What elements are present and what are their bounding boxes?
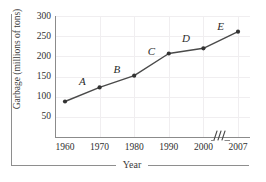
x-tick-label: 2000 [194, 142, 213, 152]
series-markers [63, 30, 240, 104]
x-tick-label: 1970 [90, 142, 109, 152]
y-axis-title-rotator: Garbage (millions of tons) [6, 0, 20, 119]
data-point-marker [132, 74, 136, 78]
x-tick-label: 1990 [159, 142, 178, 152]
y-axis-title: Garbage (millions of tons) [12, 6, 22, 113]
data-point-marker [201, 46, 205, 50]
data-point-marker [167, 51, 171, 55]
y-tick-label: 100 [37, 92, 51, 101]
series-polyline [65, 32, 238, 102]
data-point-marker [98, 85, 102, 89]
x-tick-label: 1960 [56, 142, 75, 152]
x-axis-title: Year [116, 158, 148, 172]
plot-area: 50100150200250300 1960197019801990200020… [55, 16, 250, 137]
chart-figure: Year Garbage (millions of tons) 50100150… [0, 0, 266, 182]
figure-bracket-horizontal-right [148, 165, 249, 166]
y-tick-label: 200 [37, 52, 51, 61]
x-tick-label: 1980 [125, 142, 144, 152]
y-tick-label: 300 [37, 12, 51, 21]
segment-label-e: E [217, 21, 224, 32]
segment-label-d: D [182, 32, 190, 43]
figure-bracket-horizontal-left [11, 165, 116, 166]
axis-break-zigzag-icon [211, 128, 233, 142]
data-point-marker [236, 30, 240, 34]
y-tick-label: 250 [37, 32, 51, 41]
y-tick-label: 150 [37, 72, 51, 81]
y-tick-label: 50 [42, 112, 52, 121]
segment-label-b: B [114, 63, 121, 74]
x-tick-label: 2007 [229, 142, 248, 152]
segment-label-c: C [148, 45, 155, 56]
data-point-marker [63, 99, 67, 103]
segment-label-a: A [79, 76, 86, 87]
